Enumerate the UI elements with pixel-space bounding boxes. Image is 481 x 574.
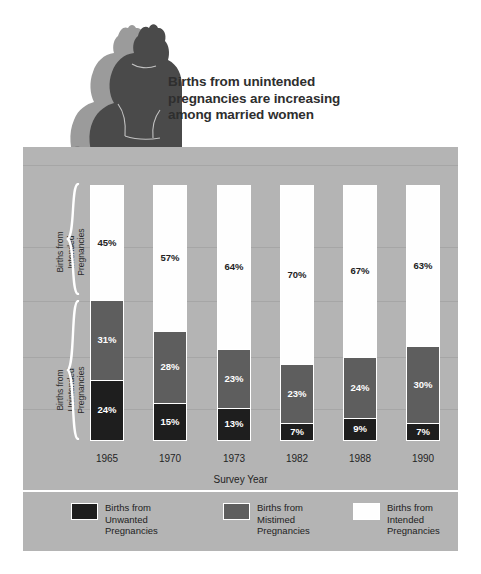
x-tick-1982: 1982 xyxy=(267,453,327,464)
segment-value: 45% xyxy=(91,238,123,248)
legend-item-intended[interactable]: Births from Intended Pregnancies xyxy=(353,502,440,537)
segment-unwanted-1982[interactable]: 7% xyxy=(280,423,314,441)
segment-unwanted-1965[interactable]: 24% xyxy=(90,380,124,441)
segment-unwanted-1990[interactable]: 7% xyxy=(406,423,440,441)
baby-silhouette-icon xyxy=(62,8,182,168)
segment-intended-1965[interactable]: 45% xyxy=(90,185,124,300)
segment-value: 64% xyxy=(218,262,250,272)
segment-intended-1970[interactable]: 57% xyxy=(153,185,187,331)
legend-swatch-unwanted-icon xyxy=(71,503,98,520)
bar-1982[interactable]: 70% 23% 7% xyxy=(280,185,314,441)
segment-intended-1982[interactable]: 70% xyxy=(280,185,314,364)
bar-group: 45% 31% 24% 57% 28% 15% xyxy=(23,147,458,490)
chart-title-line-1: Births from unintended xyxy=(168,74,418,91)
segment-unwanted-1988[interactable]: 9% xyxy=(343,418,377,441)
chart-title-line-3: among married women xyxy=(168,107,418,124)
chart-panel: Births from Intended Pregnancies Births … xyxy=(23,147,458,490)
segment-unwanted-1973[interactable]: 13% xyxy=(217,408,251,441)
x-tick-1973: 1973 xyxy=(204,453,264,464)
bar-1990[interactable]: 63% 30% 7% xyxy=(406,185,440,441)
segment-mistimed-1990[interactable]: 30% xyxy=(406,346,440,423)
chart-title: Births from unintended pregnancies are i… xyxy=(168,74,418,124)
legend-item-unwanted[interactable]: Births from Unwanted Pregnancies xyxy=(71,502,158,537)
segment-value: 24% xyxy=(91,405,123,415)
segment-intended-1990[interactable]: 63% xyxy=(406,185,440,346)
x-axis-title: Survey Year xyxy=(23,474,458,485)
segment-value: 57% xyxy=(154,253,186,263)
segment-mistimed-1970[interactable]: 28% xyxy=(153,331,187,403)
infographic-root: Births from unintended pregnancies are i… xyxy=(0,0,481,574)
x-tick-1970: 1970 xyxy=(140,453,200,464)
segment-value: 7% xyxy=(407,427,439,437)
x-tick-1965: 1965 xyxy=(77,453,137,464)
segment-value: 13% xyxy=(218,419,250,429)
legend-label-mistimed: Births from Mistimed Pregnancies xyxy=(257,502,310,537)
segment-value: 70% xyxy=(281,270,313,280)
segment-value: 9% xyxy=(344,424,376,434)
segment-mistimed-1988[interactable]: 24% xyxy=(343,357,377,418)
bar-1970[interactable]: 57% 28% 15% xyxy=(153,185,187,441)
segment-mistimed-1982[interactable]: 23% xyxy=(280,364,314,423)
legend-swatch-intended-icon xyxy=(353,503,380,520)
chart-title-line-2: pregnancies are increasing xyxy=(168,91,418,108)
segment-value: 63% xyxy=(407,261,439,271)
segment-mistimed-1973[interactable]: 23% xyxy=(217,349,251,408)
segment-value: 15% xyxy=(154,417,186,427)
bar-1988[interactable]: 67% 24% 9% xyxy=(343,185,377,441)
segment-mistimed-1965[interactable]: 31% xyxy=(90,300,124,379)
segment-value: 67% xyxy=(344,266,376,276)
segment-value: 23% xyxy=(281,389,313,399)
segment-value: 23% xyxy=(218,374,250,384)
segment-value: 24% xyxy=(344,383,376,393)
segment-intended-1973[interactable]: 64% xyxy=(217,185,251,349)
segment-intended-1988[interactable]: 67% xyxy=(343,185,377,357)
x-tick-1988: 1988 xyxy=(330,453,390,464)
segment-value: 30% xyxy=(407,380,439,390)
bar-1973[interactable]: 64% 23% 13% xyxy=(217,185,251,441)
legend-label-unwanted: Births from Unwanted Pregnancies xyxy=(105,502,158,537)
segment-value: 7% xyxy=(281,427,313,437)
legend-label-intended: Births from Intended Pregnancies xyxy=(387,502,440,537)
chart-legend: Births from Unwanted Pregnancies Births … xyxy=(23,492,458,551)
segment-value: 31% xyxy=(91,335,123,345)
segment-unwanted-1970[interactable]: 15% xyxy=(153,403,187,441)
segment-value: 28% xyxy=(154,362,186,372)
legend-item-mistimed[interactable]: Births from Mistimed Pregnancies xyxy=(223,502,310,537)
legend-swatch-mistimed-icon xyxy=(223,503,250,520)
x-tick-1990: 1990 xyxy=(393,453,453,464)
bar-1965[interactable]: 45% 31% 24% xyxy=(90,185,124,441)
